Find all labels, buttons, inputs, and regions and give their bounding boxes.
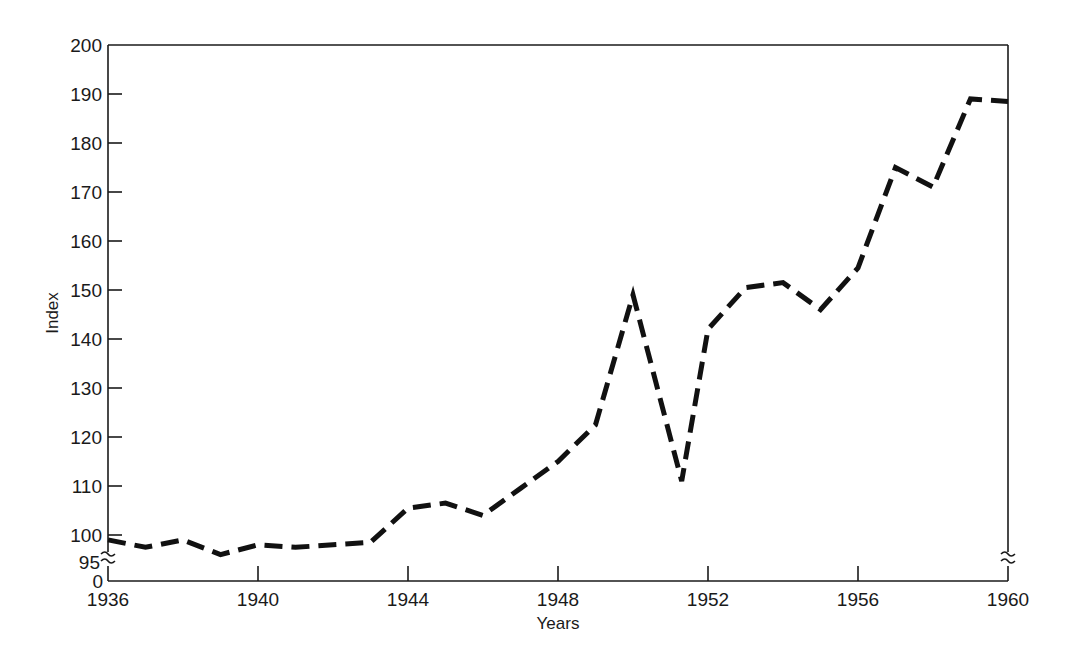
x-tick-label: 1948 — [537, 589, 579, 610]
plot-frame — [101, 45, 1015, 581]
x-tick-label: 1956 — [837, 589, 879, 610]
x-axis-title: Years — [537, 614, 580, 633]
x-tick-label: 1940 — [237, 589, 279, 610]
x-tick-label: 1960 — [987, 589, 1029, 610]
y-zero-label: 0 — [92, 571, 103, 592]
y-tick-label: 110 — [72, 476, 102, 497]
y-axis-ticks: 100110120130140150160170180190200 — [70, 35, 122, 546]
y-tick-label: 190 — [70, 84, 102, 105]
x-tick-label: 1952 — [687, 589, 729, 610]
y-axis-break-icon — [101, 552, 115, 563]
y-axis-title: Index — [43, 292, 62, 334]
y-tick-label: 120 — [70, 427, 102, 448]
x-axis-ticks: 1936194019441948195219561960 — [87, 566, 1029, 610]
y-tick-label: 170 — [70, 182, 102, 203]
y-tick-label: 150 — [70, 280, 102, 301]
y-break-label: 95 — [79, 552, 100, 573]
index-series-line — [108, 99, 1008, 555]
line-chart: 100110120130140150160170180190200 193619… — [0, 0, 1071, 663]
right-axis-break-icon — [1001, 552, 1015, 563]
y-tick-label: 160 — [70, 231, 102, 252]
x-tick-label: 1936 — [87, 589, 129, 610]
y-tick-label: 130 — [70, 378, 102, 399]
y-tick-label: 200 — [70, 35, 102, 56]
y-tick-label: 140 — [70, 329, 102, 350]
y-tick-label: 180 — [70, 133, 102, 154]
x-tick-label: 1944 — [387, 589, 430, 610]
y-tick-label: 100 — [70, 525, 102, 546]
